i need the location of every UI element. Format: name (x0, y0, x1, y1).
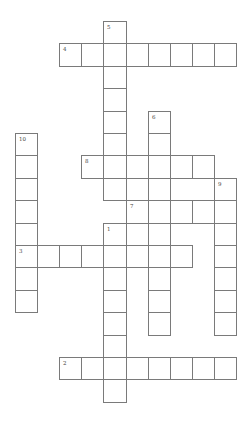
crossword-cell[interactable] (192, 200, 215, 224)
crossword-cell[interactable] (148, 267, 171, 291)
crossword-cell[interactable] (170, 245, 193, 268)
crossword-cell[interactable] (214, 312, 237, 336)
crossword-cell[interactable]: 8 (81, 155, 104, 179)
crossword-cell[interactable] (103, 66, 127, 89)
crossword-cell[interactable] (148, 200, 171, 224)
crossword-cell[interactable] (148, 357, 171, 380)
crossword-cell[interactable] (148, 178, 171, 201)
clue-number-label: 6 (152, 114, 156, 120)
crossword-cell[interactable] (15, 200, 38, 224)
crossword-cell[interactable]: 7 (126, 200, 149, 224)
crossword-cell[interactable] (103, 245, 127, 268)
crossword-cell[interactable] (15, 223, 38, 246)
clue-number-label: 9 (218, 181, 222, 187)
crossword-cell[interactable] (103, 357, 127, 380)
crossword-cell[interactable] (103, 88, 127, 112)
crossword-cell[interactable] (126, 245, 149, 268)
crossword-cell[interactable]: 10 (15, 133, 38, 156)
crossword-cell[interactable] (148, 245, 171, 268)
crossword-cell[interactable] (103, 290, 127, 313)
crossword-cell[interactable]: 9 (214, 178, 237, 201)
crossword-cell[interactable] (148, 312, 171, 336)
crossword-cell[interactable] (103, 43, 127, 67)
crossword-cell[interactable] (37, 245, 60, 268)
crossword-cell[interactable]: 5 (103, 21, 127, 44)
crossword-cell[interactable] (81, 245, 104, 268)
crossword-cell[interactable] (15, 178, 38, 201)
crossword-cell[interactable] (103, 111, 127, 134)
crossword-cell[interactable] (170, 200, 193, 224)
crossword-cell[interactable] (103, 178, 127, 201)
crossword-cell[interactable]: 4 (59, 43, 82, 67)
crossword-cell[interactable] (192, 155, 215, 179)
crossword-cell[interactable] (170, 357, 193, 380)
crossword-cell[interactable] (59, 245, 82, 268)
crossword-cell[interactable] (126, 357, 149, 380)
clue-number-label: 10 (19, 136, 26, 142)
clue-number-label: 8 (85, 158, 89, 164)
clue-number-label: 5 (107, 24, 111, 30)
crossword-cell[interactable] (148, 290, 171, 313)
crossword-grid: 12345678910 (0, 0, 250, 421)
clue-number-label: 3 (19, 248, 23, 254)
crossword-cell[interactable] (103, 267, 127, 291)
crossword-cell[interactable] (214, 43, 237, 67)
crossword-cell[interactable] (214, 200, 237, 224)
crossword-cell[interactable] (103, 335, 127, 358)
crossword-cell[interactable] (103, 133, 127, 156)
clue-number-label: 4 (63, 46, 67, 52)
crossword-cell[interactable] (148, 223, 171, 246)
crossword-cell[interactable]: 1 (103, 223, 127, 246)
crossword-cell[interactable] (214, 290, 237, 313)
crossword-cell[interactable] (192, 357, 215, 380)
crossword-cell[interactable] (15, 290, 38, 313)
crossword-cell[interactable] (126, 155, 149, 179)
crossword-cell[interactable] (81, 43, 104, 67)
crossword-cell[interactable] (148, 155, 171, 179)
crossword-cell[interactable] (103, 312, 127, 336)
crossword-cell[interactable] (103, 379, 127, 403)
clue-number-label: 1 (107, 226, 111, 232)
crossword-cell[interactable] (148, 133, 171, 156)
crossword-cell[interactable] (170, 43, 193, 67)
crossword-cell[interactable] (192, 43, 215, 67)
crossword-cell[interactable] (15, 267, 38, 291)
crossword-cell[interactable]: 3 (15, 245, 38, 268)
clue-number-label: 2 (63, 360, 67, 366)
crossword-cell[interactable] (103, 155, 127, 179)
crossword-cell[interactable] (214, 267, 237, 291)
crossword-cell[interactable] (170, 155, 193, 179)
crossword-cell[interactable] (214, 245, 237, 268)
crossword-cell[interactable] (126, 43, 149, 67)
crossword-cell[interactable] (214, 223, 237, 246)
crossword-cell[interactable]: 6 (148, 111, 171, 134)
crossword-cell[interactable] (214, 357, 237, 380)
crossword-cell[interactable] (15, 155, 38, 179)
crossword-cell[interactable] (148, 43, 171, 67)
crossword-cell[interactable]: 2 (59, 357, 82, 380)
clue-number-label: 7 (130, 203, 134, 209)
crossword-cell[interactable] (81, 357, 104, 380)
